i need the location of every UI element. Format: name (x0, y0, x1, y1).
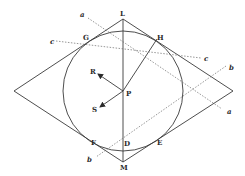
label-S: S (92, 105, 97, 114)
dotted-line-c (56, 41, 201, 58)
dotted-line-a (88, 18, 222, 109)
label-L: L (120, 9, 125, 18)
arrow-PR (98, 74, 123, 91)
label-a-end: a (227, 107, 232, 116)
label-b-start: b (229, 63, 234, 72)
label-M: M (120, 163, 128, 172)
label-R: R (90, 67, 96, 76)
label-c-end: c (204, 54, 209, 63)
arrow-PS (100, 91, 123, 107)
label-D: D (124, 139, 130, 148)
geometry-diagram: L M G H F E D P R S a a b b c c (0, 0, 245, 176)
label-F: F (91, 138, 96, 147)
label-a-start: a (80, 10, 85, 19)
label-H: H (157, 33, 164, 42)
line-PH (123, 39, 157, 91)
label-b-end: b (87, 155, 92, 164)
label-G: G (83, 33, 89, 42)
label-P: P (126, 89, 132, 98)
label-c-start: c (50, 37, 55, 46)
label-E: E (157, 138, 162, 147)
